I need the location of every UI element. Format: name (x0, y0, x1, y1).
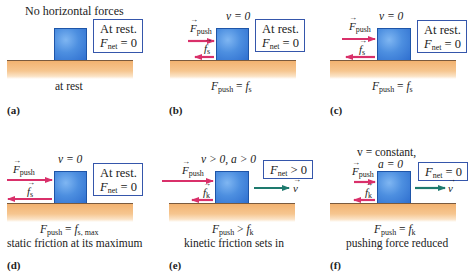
block-f (377, 171, 411, 204)
friction-label-b: →fs (204, 42, 210, 56)
panel-a-heading: No horizontal forces (25, 4, 124, 19)
panel-label-f: (f) (330, 259, 341, 271)
friction-label-f: →fk (365, 186, 372, 200)
ground-b (170, 60, 296, 79)
block-e (215, 171, 249, 204)
equation-b: Fpush = fs (211, 80, 252, 94)
push-label-b: →Fpush (190, 22, 212, 36)
caption-f: pushing force reduced (346, 237, 448, 249)
block-a (54, 28, 87, 61)
caption-d: static friction at its maximum (7, 237, 142, 249)
equation-c: Fpush = fs (372, 80, 413, 94)
equation-e: Fpush > fk (212, 223, 254, 237)
ground-d (7, 203, 133, 222)
ground-a (7, 60, 133, 79)
panel-label-d: (d) (7, 259, 20, 271)
push-label-f: →Fpush (352, 165, 374, 179)
panel-label-c: (c) (330, 104, 342, 116)
caption-a: at rest (55, 80, 83, 92)
velocity-label-e: →v (293, 182, 298, 194)
ground-c (330, 60, 456, 79)
panel-label-e: (e) (169, 259, 181, 271)
status-box-d: At rest. Fnet = 0 (93, 163, 143, 196)
velocity-text-f-1: v = constant, (357, 146, 416, 158)
status-box-b: At rest. Fnet = 0 (255, 19, 305, 52)
status-box-f: Fnet = 0 (418, 162, 468, 181)
equation-f: Fpush = fk (374, 223, 416, 237)
velocity-text-e: v > 0, a > 0 (201, 153, 256, 165)
equation-d: Fpush = fs, max (40, 223, 99, 237)
status-box-a: At rest. Fnet = 0 (93, 19, 143, 53)
ground-f (330, 203, 456, 222)
velocity-text-d: v = 0 (58, 153, 82, 165)
block-d (54, 171, 87, 204)
panel-label-b: (b) (169, 104, 182, 116)
velocity-label-f: →v (448, 182, 453, 194)
status-box-c: At rest. Fnet = 0 (417, 20, 467, 53)
push-label-e: →Fpush (182, 164, 204, 178)
friction-label-d: →fs (27, 185, 33, 199)
friction-label-c: →fs (359, 43, 365, 57)
caption-e: kinetic friction sets in (184, 237, 284, 249)
push-label-c: →Fpush (349, 20, 371, 34)
status-box-e: Fnet > 0 (263, 160, 313, 179)
velocity-text-b: v = 0 (226, 10, 250, 22)
block-c (377, 28, 411, 61)
friction-label-e: →fk (203, 186, 210, 200)
push-label-d: →Fpush (13, 163, 35, 177)
velocity-text-c: v = 0 (379, 10, 403, 22)
status-line1: At rest. (100, 22, 142, 36)
panel-label-a: (a) (7, 104, 20, 116)
ground-e (169, 203, 295, 222)
block-b (216, 28, 249, 61)
velocity-text-f-2: a = 0 (378, 158, 403, 170)
